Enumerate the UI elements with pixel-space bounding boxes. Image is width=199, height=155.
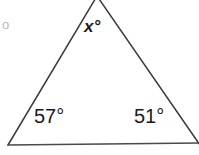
bottom-right-angle-label: 51° — [134, 106, 164, 126]
triangle-angle-diagram: x° 57° 51° o — [0, 0, 199, 155]
apex-angle-label: x° — [84, 18, 100, 35]
bottom-left-angle-label: 57° — [34, 106, 64, 126]
triangle-base-side — [8, 143, 199, 145]
stray-artifact-mark: o — [2, 18, 9, 31]
